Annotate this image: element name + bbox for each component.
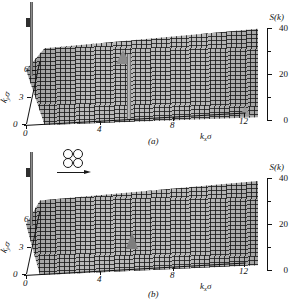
x-tick-label-a-1: 4 bbox=[97, 124, 102, 134]
surface-mesh-a bbox=[26, 18, 258, 126]
front-peak-b bbox=[126, 232, 138, 249]
x-axis-title-a-sigma: σ bbox=[207, 131, 211, 141]
y-axis-title-a: kyσ bbox=[0, 90, 13, 105]
s-axis-title-b: S(k) bbox=[270, 162, 285, 172]
surface-shading-a bbox=[26, 18, 258, 126]
y-tick-a-0 bbox=[22, 124, 26, 125]
x-tick-label-a-3: 12 bbox=[239, 116, 248, 126]
panel-b: 0 4 8 12 kxσ 0 3 6 kyσ S(k) 40 20 0 (b) bbox=[0, 150, 298, 300]
s-tick-label-b-0: 0 bbox=[284, 265, 289, 275]
x-tick-label-a-0: 0 bbox=[23, 128, 28, 138]
x-axis-title-b: kxσ bbox=[200, 281, 211, 292]
s-tick-label-b-2: 40 bbox=[279, 173, 288, 183]
y-tick-label-b-1: 3 bbox=[19, 242, 24, 252]
corner-peak-a bbox=[240, 106, 250, 116]
y-tick-b-2 bbox=[32, 220, 36, 221]
mesh-surface-b bbox=[26, 168, 258, 276]
s-tick-a-0 bbox=[267, 120, 272, 121]
y-tick-b-0 bbox=[22, 274, 26, 275]
x-axis-title-b-sigma: σ bbox=[207, 281, 211, 291]
s-tick-minor-a-30 bbox=[268, 51, 271, 52]
panel-label-b: (b) bbox=[148, 289, 159, 299]
panel-a: 0 4 8 12 kxσ 0 3 6 kyσ S(k) 40 20 0 (a) bbox=[0, 0, 298, 150]
bragg-ridge-a bbox=[127, 54, 131, 120]
y-tick-a-1 bbox=[27, 97, 31, 98]
surface-plot-b bbox=[26, 168, 258, 276]
s-tick-b-40 bbox=[267, 178, 272, 179]
y-axis-title-b: kyσ bbox=[0, 240, 13, 255]
s-tick-label-a-0: 0 bbox=[284, 115, 289, 125]
y-tick-label-a-2: 6 bbox=[24, 64, 29, 74]
s-tick-b-20 bbox=[267, 224, 272, 225]
s-tick-b-0 bbox=[267, 270, 272, 271]
y-tick-label-b-2: 6 bbox=[24, 214, 29, 224]
x-tick-label-b-1: 4 bbox=[97, 274, 102, 284]
s-tick-minor-a-10 bbox=[268, 97, 271, 98]
s-tick-a-40 bbox=[267, 28, 272, 29]
s-axis-title-a: S(k) bbox=[270, 12, 285, 22]
s-tick-minor-b-10 bbox=[268, 247, 271, 248]
y-tick-a-2 bbox=[32, 70, 36, 71]
y-tick-label-a-1: 3 bbox=[19, 92, 24, 102]
s-tick-label-a-1: 20 bbox=[279, 69, 288, 79]
s-tick-minor-b-30 bbox=[268, 201, 271, 202]
s-tick-label-a-2: 40 bbox=[279, 23, 288, 33]
x-tick-label-b-2: 8 bbox=[170, 270, 175, 280]
x-tick-label-a-2: 8 bbox=[170, 120, 175, 130]
x-tick-label-b-0: 0 bbox=[23, 278, 28, 288]
panel-label-a: (a) bbox=[148, 136, 159, 146]
structure-factor-figure: 0 4 8 12 kxσ 0 3 6 kyσ S(k) 40 20 0 (a) bbox=[0, 0, 298, 303]
s-tick-label-b-1: 20 bbox=[279, 219, 288, 229]
surface-mesh-b bbox=[26, 168, 258, 276]
y-tick-label-a-0: 0 bbox=[13, 119, 18, 129]
surface-plot-a bbox=[26, 18, 258, 126]
y-tick-label-b-0: 0 bbox=[13, 269, 18, 279]
surface-shading-b bbox=[26, 168, 258, 276]
origin-spike-b bbox=[30, 152, 33, 226]
x-axis-title-a: kxσ bbox=[200, 131, 211, 142]
mesh-surface-a bbox=[26, 18, 258, 126]
x-tick-label-b-3: 12 bbox=[239, 266, 248, 276]
y-tick-b-1 bbox=[27, 247, 31, 248]
origin-spike-a bbox=[30, 2, 33, 76]
s-tick-a-20 bbox=[267, 74, 272, 75]
